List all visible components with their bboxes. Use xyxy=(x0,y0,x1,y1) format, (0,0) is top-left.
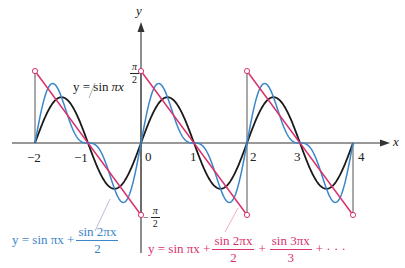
eq-den1: 2 xyxy=(230,250,237,265)
y-axis-arrow-icon xyxy=(138,22,145,32)
label-series: y = sin πx + sin 2πx2 + sin 3πx3 + · · · xyxy=(148,234,346,264)
eq-num1: sin 2πx xyxy=(212,234,254,250)
tick-minus-1: −1 xyxy=(74,151,88,164)
eq-plus: + xyxy=(258,242,265,256)
eq-tail: + · · · xyxy=(316,242,346,256)
tick-2: 2 xyxy=(250,150,257,163)
denominator: 2 xyxy=(132,74,137,85)
label-sin-pix: y = sin πx xyxy=(73,80,124,94)
pi-symbol: π xyxy=(130,62,139,74)
open-circle-icon xyxy=(244,212,249,217)
denominator: 2 xyxy=(153,218,158,229)
minus-sign: − xyxy=(143,213,149,223)
eq-rhs: πx xyxy=(112,80,124,94)
leader-pink xyxy=(225,208,238,232)
label-two-terms: y = sin πx + sin 2πx2 xyxy=(12,225,120,255)
y-axis-label: y xyxy=(136,4,142,17)
open-circle-icon xyxy=(32,68,37,73)
eq-den2: 3 xyxy=(287,250,294,265)
pi-symbol: π xyxy=(151,206,160,218)
x-axis-arrow-icon xyxy=(380,140,390,147)
open-circle-icon xyxy=(350,212,355,217)
eq-lhs: y = sin πx + xyxy=(148,242,210,256)
tick-pi-over-2: π2 xyxy=(128,62,141,85)
tick-1: 1 xyxy=(190,150,197,163)
eq-num2: sin 3πx xyxy=(270,234,312,250)
tick-minus-pi-over-2: − π2 xyxy=(143,206,162,229)
eq-den: 2 xyxy=(94,241,101,256)
tick-3: 3 xyxy=(294,150,301,163)
tick-minus-2: −2 xyxy=(27,151,41,164)
eq-num: sin 2πx xyxy=(76,225,118,241)
open-circle-icon xyxy=(244,68,249,73)
eq-lhs: y = sin πx + xyxy=(12,233,74,247)
tick-4: 4 xyxy=(358,150,365,163)
eq-lhs: y = sin xyxy=(73,80,109,94)
x-axis-label: x xyxy=(393,135,399,148)
tick-0: 0 xyxy=(145,150,152,163)
